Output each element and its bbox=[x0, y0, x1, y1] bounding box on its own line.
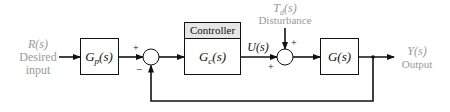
input-label: R(s) Desired input bbox=[19, 37, 56, 77]
sum2-plus-left: + bbox=[268, 61, 274, 72]
controller-tail: (s) bbox=[212, 49, 226, 64]
svg-text:Gc(s): Gc(s) bbox=[199, 49, 226, 66]
disturbance-label: Td(s) Disturbance bbox=[258, 1, 311, 26]
input-input-label: input bbox=[26, 63, 51, 77]
output-label: Y(s) Output bbox=[402, 44, 433, 70]
plant-block: G(s) bbox=[321, 39, 359, 75]
control-signal-label: U(s) bbox=[247, 40, 268, 54]
controller-block: Controller Gc(s) bbox=[185, 23, 241, 75]
block-diagram: R(s) Desired input Gp(s) + − Controller … bbox=[0, 0, 450, 112]
output-name-label: Output bbox=[402, 58, 433, 70]
disturbance-tail: (s) bbox=[284, 1, 297, 15]
svg-text:Gp(s): Gp(s) bbox=[85, 49, 113, 66]
input-signal-label: R(s) bbox=[27, 37, 48, 51]
prefilter-block: Gp(s) bbox=[81, 39, 119, 75]
summing-junction-1: + − bbox=[133, 42, 159, 75]
sum1-minus-sign: − bbox=[136, 63, 142, 75]
prefilter-tail: (s) bbox=[99, 49, 113, 64]
summing-junction-2: + + bbox=[268, 37, 297, 72]
plant-label: G(s) bbox=[328, 49, 351, 64]
sum1-plus-sign: + bbox=[133, 42, 139, 53]
controller-header: Controller bbox=[190, 24, 236, 36]
input-desired-label: Desired bbox=[19, 50, 56, 64]
disturbance-name: Disturbance bbox=[258, 14, 311, 26]
output-signal-label: Y(s) bbox=[407, 44, 426, 58]
sum2-plus-top: + bbox=[291, 37, 297, 48]
